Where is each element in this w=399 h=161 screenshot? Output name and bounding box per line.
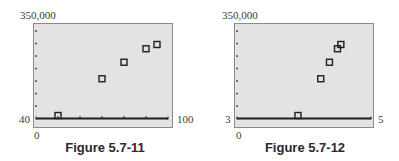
scatter-plot [200, 0, 399, 161]
scatter-plot [0, 0, 199, 161]
x-tick [79, 116, 80, 117]
data-point-marker [143, 46, 149, 52]
y-tick [236, 105, 238, 107]
figure-5-7-12: 350,000 3 5 0 Figure 5.7-12 [200, 0, 399, 161]
x-max-label: 5 [378, 114, 384, 125]
data-point-marker [326, 59, 332, 65]
y-tick [236, 80, 238, 82]
y-tick [236, 43, 238, 45]
x-tick [57, 116, 58, 117]
x-min-label: 3 [225, 114, 231, 125]
y-tick [236, 55, 238, 57]
x-max-label: 100 [177, 114, 194, 125]
figure-caption: Figure 5.7-11 [65, 141, 144, 154]
x-tick [145, 116, 146, 117]
data-point-marker [121, 59, 127, 65]
data-point-marker [154, 42, 160, 48]
data-point-marker [99, 76, 105, 82]
data-point-marker [318, 76, 324, 82]
x-tick [101, 116, 102, 117]
y-tick [35, 43, 37, 45]
y-tick [35, 93, 37, 95]
y-tick [35, 105, 37, 107]
y-tick [236, 93, 238, 95]
figure-caption: Figure 5.7-12 [265, 141, 345, 154]
y-min-label: 0 [34, 130, 40, 141]
y-tick [35, 55, 37, 57]
x-tick [123, 116, 124, 117]
y-tick [35, 30, 37, 32]
y-tick [35, 80, 37, 82]
y-tick [35, 68, 37, 70]
x-min-label: 40 [19, 114, 30, 125]
y-tick [236, 68, 238, 70]
y-min-label: 0 [236, 130, 242, 141]
figure-5-7-11: 350,000 40 100 0 Figure 5.7-11 [0, 0, 199, 161]
y-tick [236, 30, 238, 32]
